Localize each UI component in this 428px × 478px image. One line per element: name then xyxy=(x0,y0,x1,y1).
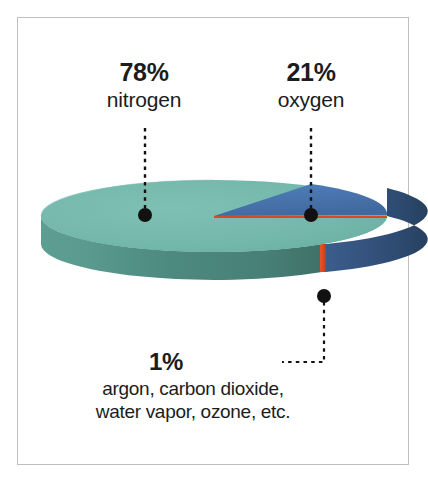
minor-gases-label-line-2: water vapor, ozone, etc. xyxy=(48,400,338,423)
minor-gases-label-line-1: argon, carbon dioxide, xyxy=(48,377,338,400)
callout-minor-gases: 1% argon, carbon dioxide, water vapor, o… xyxy=(48,348,338,423)
minor-gases-side-wall xyxy=(320,244,326,272)
minor-gases-label: argon, carbon dioxide, water vapor, ozon… xyxy=(48,377,338,423)
callout-nitrogen: 78% nitrogen xyxy=(64,58,224,112)
nitrogen-percent: 78% xyxy=(64,58,224,88)
callout-oxygen: 21% oxygen xyxy=(236,58,386,112)
nitrogen-leader-dot xyxy=(138,208,152,222)
oxygen-percent: 21% xyxy=(236,58,386,88)
nitrogen-label: nitrogen xyxy=(64,88,224,113)
oxygen-leader-dot xyxy=(304,208,318,222)
minor-gases-top-seam xyxy=(214,216,387,218)
oxygen-label: oxygen xyxy=(236,88,386,113)
minor-gases-leader-dot xyxy=(317,289,331,303)
pie-chart: 78% nitrogen 21% oxygen 1% argon, carbon… xyxy=(0,0,428,478)
minor-gases-percent: 1% xyxy=(0,348,338,376)
